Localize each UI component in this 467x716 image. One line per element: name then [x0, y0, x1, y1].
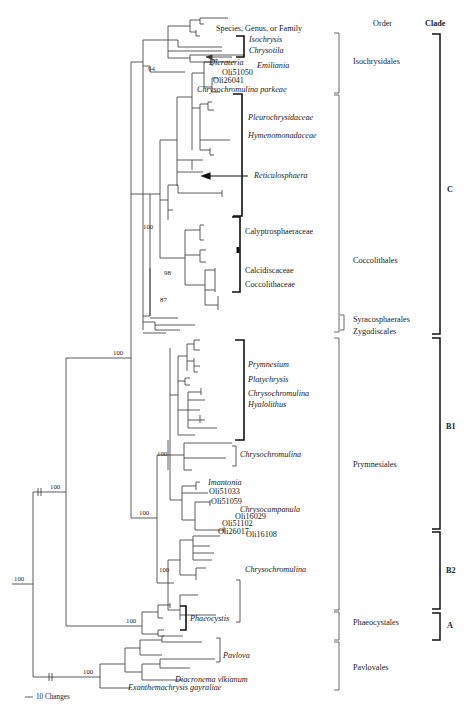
taxon-isochrysis: Isochrysis: [249, 36, 282, 44]
order-isochrysidales: Isochrysidales: [353, 58, 400, 66]
order-syracosphaerales: Syracosphaerales: [353, 316, 410, 324]
bootstrap-87: 87: [160, 297, 167, 304]
clade-a: A: [447, 622, 453, 630]
bootstrap-prymnesiales: 100: [139, 510, 149, 517]
clade-c: C: [447, 186, 453, 194]
taxon-reticulosphaera: Reticulosphaera: [254, 172, 308, 180]
order-phaeocystales: Phaeocystales: [353, 619, 399, 627]
taxon-chrysotila: Chrysotila: [249, 47, 284, 55]
bootstrap-coccolithales: 100: [143, 224, 153, 231]
header-clade: Clade: [425, 20, 445, 28]
taxon-oli26041: Oli26041: [213, 77, 244, 85]
taxon-chrysochromulina-2: Chrysochromulina: [240, 451, 301, 459]
clade-b1: B1: [446, 423, 456, 431]
bootstrap-phaeocystis: 100: [126, 618, 136, 625]
taxon-prymnesium: Prymnesium: [248, 361, 289, 369]
taxon-oli51059: Oli51059: [211, 498, 242, 506]
taxon-imantonia: Imantonia: [208, 479, 242, 487]
bootstrap-haptophyta: 100: [50, 484, 60, 491]
bootstrap-98: 98: [164, 270, 171, 277]
taxon-oli16108: Oli16108: [246, 531, 277, 539]
bootstrap-b1: 100: [157, 451, 167, 458]
header-taxa: Species, Genus, or Family: [216, 25, 302, 33]
bootstrap-isochrysidales: 94: [148, 66, 155, 73]
taxon-chrysochromulina-3: Chrysochromulina: [245, 566, 306, 574]
taxon-dicrateria: Dicrateria: [209, 59, 244, 67]
taxon-pavlova: Pavlova: [223, 652, 250, 660]
taxon-coccolithaceae: Coccolithaceae: [245, 281, 295, 289]
taxon-hymenomonadaceae: Hymenomonadaceae: [248, 132, 317, 140]
taxon-chrysochromulina-parkeae: Chrysochromulina parkeae: [197, 86, 287, 94]
taxon-oli26017: Oli26017: [218, 528, 249, 536]
scale-bar-label: 10 Changes: [36, 694, 70, 701]
bootstrap-b2: 100: [159, 567, 169, 574]
taxon-exanthemachrysis-gayraliae: Exanthemachrysis gayraliae: [128, 684, 221, 692]
bootstrap-root: 100: [14, 576, 24, 583]
order-pavlovales: Pavlovales: [353, 664, 388, 672]
taxon-calcidiscaceae: Calcidiscaceae: [245, 267, 294, 275]
taxon-platychrysis: Platychrysis: [248, 376, 288, 384]
order-zygodiscales: Zygodiscales: [353, 328, 396, 336]
taxon-emiliania: Emiliania: [257, 62, 289, 70]
taxon-hyalolithus: Hyalolithus: [248, 401, 286, 409]
header-order: Order: [373, 20, 392, 28]
taxon-pleurochrysidaceae: Pleurochrysidaceae: [248, 114, 313, 122]
order-coccolithales: Coccolithales: [353, 257, 398, 265]
clade-b2: B2: [446, 567, 456, 575]
taxon-calyptrosphaeraceae: Calyptrosphaeraceae: [245, 228, 313, 236]
taxon-chrysochromulina: Chrysochromulina: [248, 390, 309, 398]
taxon-phaeocystis: Phaeocystis: [190, 615, 229, 623]
bootstrap-core: 100: [113, 350, 123, 357]
order-prymnesiales: Prymnesiales: [353, 461, 397, 469]
phylogenetic-tree: [0, 0, 467, 716]
taxon-oli51033: Oli51033: [209, 488, 240, 496]
bootstrap-pavlovales: 100: [83, 669, 93, 676]
